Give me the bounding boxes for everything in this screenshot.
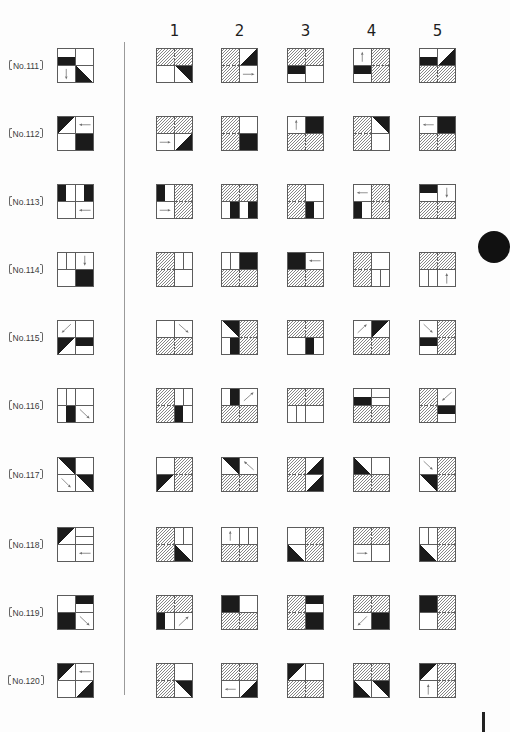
arrow-left-icon [222,681,239,698]
black-triangle-br-cell [306,458,324,475]
arrow-ur-icon [354,321,371,337]
hatched-cell [157,338,175,355]
hatched-cell [420,134,438,151]
hatched-cell [420,66,438,83]
answer-option-4-figure [353,48,390,83]
thumb-index-tab [478,231,510,263]
black-bar-right-cell [58,406,76,423]
answer-option-4-figure [353,663,390,698]
answer-option-1-figure [156,663,193,698]
divided-cell [420,528,438,545]
hatched-cell [372,528,390,545]
black-triangle-tr-cell [222,321,240,338]
blank-cell [288,528,306,545]
hatched-cell [372,596,390,613]
arrow-left-icon [354,185,371,201]
answer-option-1-figure [156,457,193,492]
black-bar-left-cell [175,406,193,423]
arrow-cell [354,321,372,338]
black-cell [420,596,438,613]
answer-option-4-figure [353,116,390,151]
blank-cell [76,458,94,475]
hatched-cell [288,134,306,151]
arrow-dr-icon [175,321,193,337]
hatched-cell [240,321,258,338]
hatched-cell [240,406,258,423]
arrow-cell [58,66,76,83]
bracket-open [9,539,12,549]
hatched-cell [157,406,175,423]
black-triangle-tl-cell [58,117,76,134]
hatched-cell [354,338,372,355]
hatched-cell [288,389,306,406]
hatched-cell [222,664,240,681]
hatched-cell [288,270,306,287]
hatched-cell [240,338,258,355]
blank-cell [157,458,175,475]
bracket-close [40,128,43,138]
answer-option-2-figure [221,320,258,355]
black-cell [240,134,258,151]
answer-option-4-figure [353,595,390,630]
arrow-cell [420,321,438,338]
arrow-cell [420,458,438,475]
blank-cell [58,545,76,562]
arrow-down-icon [76,253,94,269]
question-figure [57,663,94,698]
question-number-text: No.114 [13,265,40,275]
arrow-dl-icon [354,613,371,630]
blank-cell [58,681,76,698]
hatched-cell [420,389,438,406]
black-bar-top-cell [76,338,94,355]
hatched-cell [438,596,456,613]
black-triangle-tl-cell [157,475,175,492]
question-figure [57,457,94,492]
arrow-dr-icon [420,458,437,474]
hatched-cell [288,613,306,630]
answer-option-5-figure [419,595,456,630]
black-cell [438,117,456,134]
question-number-label: No.117 [2,469,50,481]
bracket-open [9,264,12,274]
arrow-cell [306,253,324,270]
blank-cell [240,596,258,613]
bracket-close [40,332,43,342]
black-triangle-bl-cell [354,681,372,698]
hatched-cell [288,185,306,202]
black-triangle-tr-cell [372,117,390,134]
hatched-cell [420,406,438,423]
option-number-header: 1 [156,21,193,41]
arrow-left-icon [76,545,94,562]
black-cell [76,270,94,287]
question-number-text: No.113 [13,197,40,207]
black-triangle-bl-cell [288,545,306,562]
black-triangle-tr-cell [372,681,390,698]
question-number-text: No.117 [13,470,40,480]
arrow-up-icon [288,117,305,133]
black-bar-right-cell [76,185,94,202]
bracket-open [8,675,11,685]
hatched-cell [438,681,456,698]
divided-cell [76,528,94,545]
bracket-open [9,607,12,617]
blank-cell [288,338,306,355]
question-figure [57,116,94,151]
answer-option-1-figure [156,595,193,630]
blank-cell [175,664,193,681]
black-bar-right-cell [240,202,258,219]
answer-option-3-figure [287,116,324,151]
arrow-up-icon [354,49,371,65]
hatched-cell [438,528,456,545]
arrow-right-icon [157,202,174,219]
arrow-dr-icon [76,613,94,630]
blank-cell [157,66,175,83]
answer-option-1-figure [156,527,193,562]
question-number-label: No.111 [2,60,50,72]
answer-option-1-figure [156,388,193,423]
answer-option-1-figure [156,252,193,287]
bracket-open [9,400,12,410]
black-bar-top-cell [438,406,456,423]
arrow-cell [157,134,175,151]
black-bar-bottom-cell [354,389,372,406]
question-number-text: No.120 [12,676,39,686]
